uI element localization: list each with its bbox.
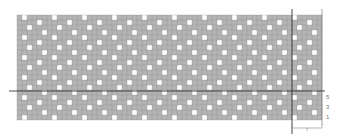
stitch-grid [0, 0, 347, 138]
row-label-3: 3 [326, 104, 329, 110]
grid-cells [17, 15, 322, 120]
row-label-5: 5 [326, 94, 329, 100]
knitting-chart: 5 3 1 [0, 0, 347, 138]
repeat-bracket [292, 124, 322, 131]
row-label-1: 1 [326, 114, 329, 120]
